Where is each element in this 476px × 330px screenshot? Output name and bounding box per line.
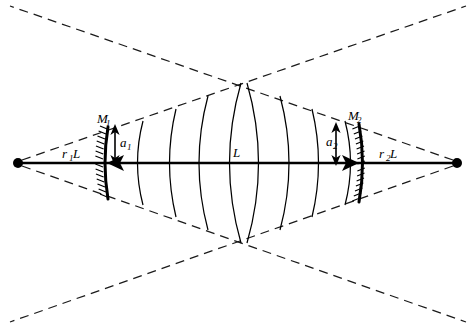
mirror-left-label-subscript: 1 bbox=[106, 118, 111, 128]
dashed-ray-right-apex-upper bbox=[10, 6, 453, 160]
optical-resonator-figure: M 1 a 1 r 1 L L a 2 M 2 r 2 L bbox=[0, 0, 476, 330]
right-distance-label-unit: L bbox=[389, 146, 397, 161]
beam-radius-left-label-subscript: 1 bbox=[127, 142, 132, 152]
dashed-ray-left-apex-upper bbox=[22, 6, 466, 160]
left-apex-dot bbox=[13, 158, 23, 168]
cavity-length-label: L bbox=[232, 145, 240, 160]
diagram-canvas: M 1 a 1 r 1 L L a 2 M 2 r 2 L bbox=[0, 0, 476, 330]
left-distance-label: r bbox=[62, 146, 68, 161]
left-distance-label-unit: L bbox=[72, 146, 80, 161]
right-distance-label: r bbox=[379, 146, 385, 161]
beam-radius-right-label: a bbox=[326, 134, 333, 149]
beam-radius-right-label-subscript: 2 bbox=[333, 141, 338, 151]
dashed-ray-left-apex-lower bbox=[22, 166, 466, 322]
beam-radius-left-label: a bbox=[120, 135, 127, 150]
mirror-right-label-subscript: 2 bbox=[357, 115, 362, 125]
dashed-ray-right-apex-lower bbox=[10, 166, 453, 322]
right-apex-dot bbox=[452, 158, 462, 168]
